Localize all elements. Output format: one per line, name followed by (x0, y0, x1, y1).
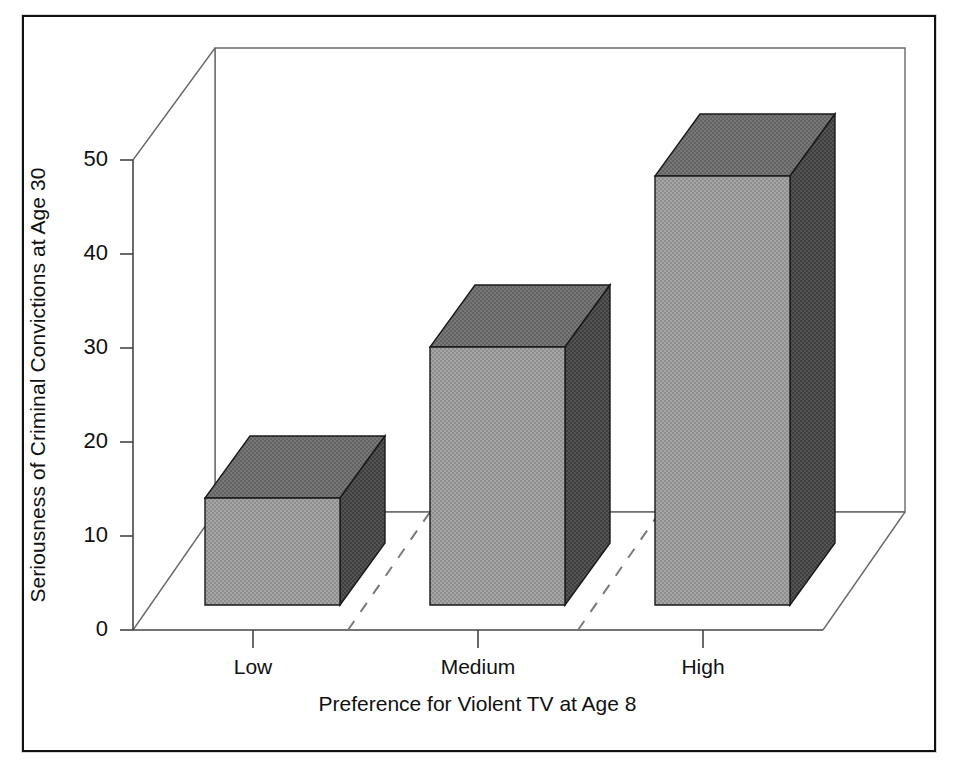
y-tick-label-0: 0 (48, 616, 108, 642)
y-axis (120, 160, 133, 630)
y-tick-label-30: 30 (48, 334, 108, 360)
x-tick-label-medium: Medium (378, 655, 578, 679)
figure-root: Seriousness of Criminal Convictions at A… (0, 0, 955, 773)
y-axis-title: Seriousness of Criminal Convictions at A… (26, 105, 50, 665)
y-axis-title-wrap: Seriousness of Criminal Convictions at A… (0, 0, 40, 773)
y-tick-label-20: 20 (48, 428, 108, 454)
bar-medium-front-face (430, 347, 565, 605)
y-tick-label-10: 10 (48, 522, 108, 548)
x-axis-title: Preference for Violent TV at Age 8 (0, 692, 955, 716)
x-tick-label-low: Low (153, 655, 353, 679)
bar-low-front-face (205, 498, 340, 605)
x-tick-label-high: High (603, 655, 803, 679)
bar-high[interactable] (655, 114, 835, 605)
bar-high-side-face (790, 114, 835, 605)
bar-low[interactable] (205, 436, 385, 605)
bar-high-front-face (655, 176, 790, 605)
y-tick-label-40: 40 (48, 240, 108, 266)
bar-medium[interactable] (430, 285, 610, 605)
x-axis (133, 630, 823, 648)
y-tick-label-50: 50 (48, 146, 108, 172)
